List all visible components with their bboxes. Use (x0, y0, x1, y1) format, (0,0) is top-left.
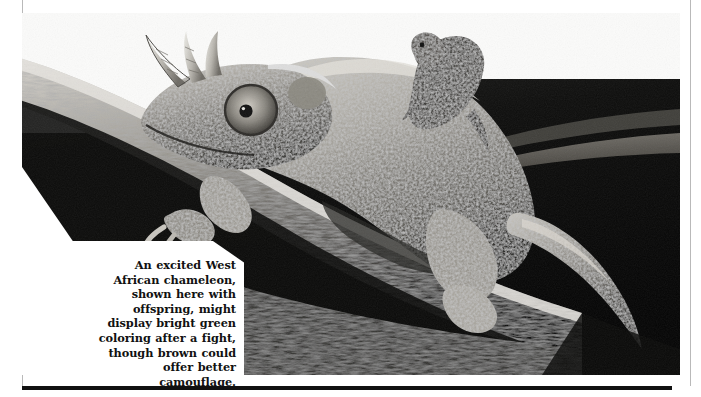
bottom-horizontal-rule (22, 386, 672, 390)
photo-caption: An excited West African chameleon, shown… (88, 258, 236, 389)
scanned-page: An excited West African chameleon, shown… (0, 0, 701, 397)
right-column-rule (690, 0, 691, 386)
